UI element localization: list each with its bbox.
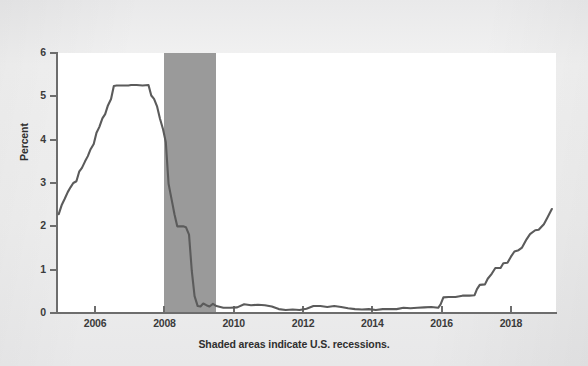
y-tick-label: 3 <box>8 176 46 188</box>
y-tick-label: 0 <box>8 306 46 318</box>
y-tick-label: 2 <box>8 219 46 231</box>
x-tick-label: 2012 <box>278 317 328 329</box>
recession-shaded-region <box>164 53 216 313</box>
y-tick-mark <box>50 182 57 184</box>
chart-figure: 0123456 2006200820102012201420162018 Per… <box>0 0 588 366</box>
x-tick-label: 2010 <box>209 317 259 329</box>
x-tick-label: 2016 <box>417 317 467 329</box>
x-tick-label: 2014 <box>347 317 397 329</box>
x-tick-mark <box>302 306 304 313</box>
chart-footnote: Shaded areas indicate U.S. recessions. <box>0 338 588 350</box>
x-tick-mark <box>510 306 512 313</box>
y-tick-mark <box>50 52 57 54</box>
x-tick-label: 2008 <box>139 317 189 329</box>
x-tick-mark <box>233 306 235 313</box>
x-tick-mark <box>371 306 373 313</box>
x-tick-mark <box>94 306 96 313</box>
x-tick-label: 2018 <box>486 317 536 329</box>
y-tick-mark <box>50 312 57 314</box>
x-tick-mark <box>163 306 165 313</box>
y-tick-mark <box>50 269 57 271</box>
y-tick-mark <box>50 95 57 97</box>
y-tick-mark <box>50 139 57 141</box>
y-tick-mark <box>50 225 57 227</box>
x-axis-line <box>56 312 557 314</box>
y-tick-label: 6 <box>8 46 46 58</box>
x-tick-label: 2006 <box>70 317 120 329</box>
plot-area <box>57 53 556 313</box>
x-tick-mark <box>441 306 443 313</box>
y-tick-label: 1 <box>8 263 46 275</box>
y-axis-label: Percent <box>18 123 30 161</box>
y-tick-label: 5 <box>8 89 46 101</box>
